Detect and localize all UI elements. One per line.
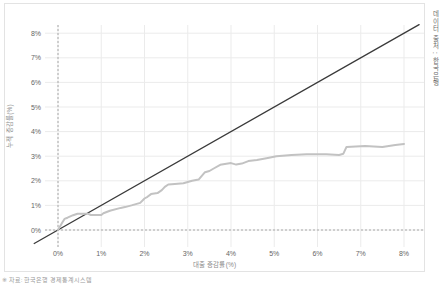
y-tick-label: 1% (31, 202, 41, 209)
x-tick-label: 8% (399, 250, 409, 257)
x-tick-label: 4% (226, 250, 236, 257)
y-tick-label: 5% (31, 104, 41, 111)
data-source-vertical-text: 데이터 출처 : 한국은행 (430, 10, 440, 170)
y-tick-label: 0% (31, 227, 41, 234)
chart-panel: 0%1%2%3%4%5%6%7%8%0%1%2%3%4%5%6%7%8% (4, 3, 425, 272)
x-tick-label: 1% (96, 250, 106, 257)
y-tick-label: 3% (31, 153, 41, 160)
footnote-caption: ※ 자료: 한국은행 경제통계시스템 (2, 275, 262, 284)
x-tick-label: 0% (53, 250, 63, 257)
chart-canvas: 0%1%2%3%4%5%6%7%8%0%1%2%3%4%5%6%7%8% (5, 4, 426, 273)
y-tick-label: 7% (31, 54, 41, 61)
x-tick-label: 2% (139, 250, 149, 257)
y-tick-label: 2% (31, 177, 41, 184)
y-tick-label: 6% (31, 79, 41, 86)
y-tick-label: 8% (31, 30, 41, 37)
x-tick-label: 3% (183, 250, 193, 257)
x-tick-label: 6% (312, 250, 322, 257)
x-tick-label: 5% (269, 250, 279, 257)
x-tick-label: 7% (356, 250, 366, 257)
y-tick-label: 4% (31, 128, 41, 135)
x-axis-label: 대출 증감률(%) (4, 259, 425, 269)
y-axis-label: 누적 증감률(%) (4, 81, 14, 171)
